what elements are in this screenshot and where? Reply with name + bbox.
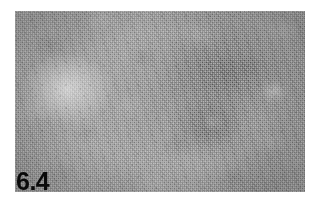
histology-micrograph-image (15, 11, 305, 192)
figure-panel: 6.4 (0, 0, 312, 200)
plate-vignette (15, 11, 305, 192)
figure-number-label: 6.4 (16, 169, 49, 194)
